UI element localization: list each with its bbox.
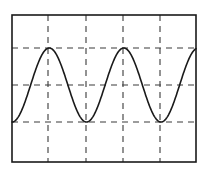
- oscilloscope-figure: [0, 0, 206, 173]
- waveform-graticule-svg: [0, 0, 206, 173]
